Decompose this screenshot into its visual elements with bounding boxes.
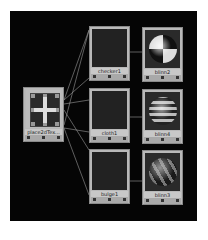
- expand-arrow-icon[interactable]: [42, 136, 45, 139]
- blinn4-node[interactable]: blinn4: [142, 89, 183, 144]
- input-port-icon[interactable]: [93, 198, 96, 201]
- input-port-icon[interactable]: [93, 75, 96, 78]
- blinn2-swatch: [145, 30, 180, 68]
- output-port-icon[interactable]: [123, 137, 126, 140]
- expand-arrow-icon[interactable]: [161, 199, 164, 202]
- expand-arrow-icon[interactable]: [108, 198, 111, 201]
- output-port-icon[interactable]: [176, 76, 179, 79]
- checker-swatch: [92, 29, 127, 67]
- output-port-icon[interactable]: [123, 75, 126, 78]
- input-port-icon[interactable]: [146, 76, 149, 79]
- input-port-icon[interactable]: [27, 136, 30, 139]
- place2dtexture-node[interactable]: place2dTex...: [23, 87, 64, 142]
- expand-arrow-icon[interactable]: [108, 75, 111, 78]
- input-port-icon[interactable]: [146, 138, 149, 141]
- shader-sphere-preview: [149, 97, 177, 125]
- output-port-icon[interactable]: [57, 136, 60, 139]
- node-ports: [144, 137, 181, 143]
- input-port-icon[interactable]: [93, 137, 96, 140]
- node-ports: [144, 198, 181, 204]
- input-port-icon[interactable]: [146, 199, 149, 202]
- expand-arrow-icon[interactable]: [161, 138, 164, 141]
- bulge-node[interactable]: bulge1: [89, 149, 130, 204]
- expand-arrow-icon[interactable]: [108, 137, 111, 140]
- blinn4-swatch: [145, 92, 180, 130]
- node-ports: [91, 136, 128, 142]
- blinn3-node[interactable]: blinn3: [142, 150, 183, 205]
- expand-arrow-icon[interactable]: [161, 76, 164, 79]
- output-port-icon[interactable]: [176, 138, 179, 141]
- bulge-swatch: [92, 152, 127, 190]
- shader-sphere-preview: [149, 35, 177, 63]
- checker-node[interactable]: checker1: [89, 26, 130, 81]
- place2dtexture-icon: [30, 93, 60, 127]
- output-port-icon[interactable]: [123, 198, 126, 201]
- blinn2-node[interactable]: blinn2: [142, 27, 183, 82]
- node-ports: [91, 197, 128, 203]
- blinn3-swatch: [145, 153, 180, 191]
- shader-sphere-preview: [149, 158, 177, 186]
- cloth-swatch: [92, 91, 127, 129]
- node-ports: [25, 135, 62, 141]
- cloth-node[interactable]: cloth1: [89, 88, 130, 143]
- node-ports: [91, 74, 128, 80]
- place2dtexture-swatch: [26, 90, 61, 128]
- node-ports: [144, 75, 181, 81]
- output-port-icon[interactable]: [176, 199, 179, 202]
